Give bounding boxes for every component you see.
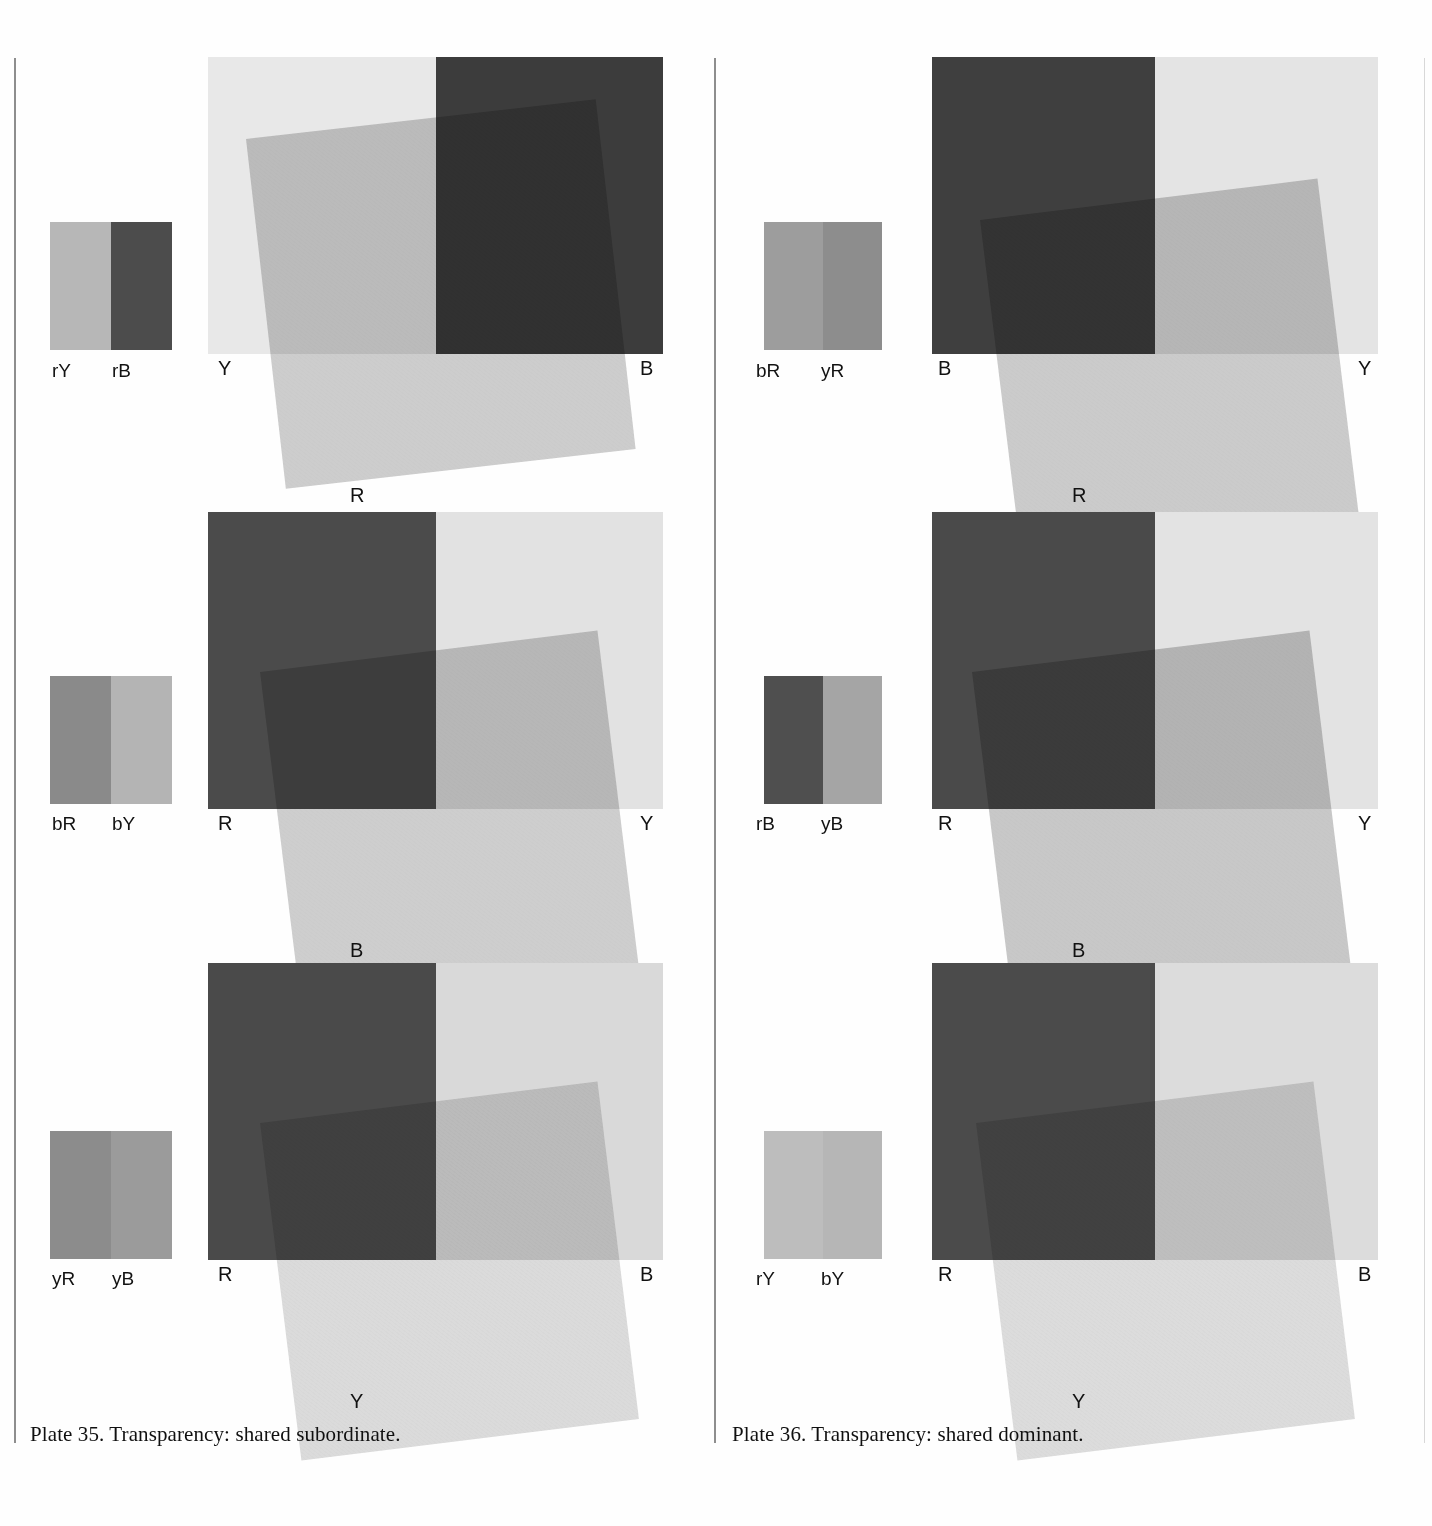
swatch-right bbox=[823, 676, 882, 804]
swatch-labels: bR bY bbox=[52, 813, 212, 835]
swatch-left bbox=[50, 1131, 111, 1259]
swatch-label-right: yB bbox=[112, 1268, 172, 1290]
overlay-square bbox=[972, 631, 1351, 1010]
swatch-label-left: rY bbox=[756, 1268, 821, 1290]
corner-label-top-left: R bbox=[938, 1263, 952, 1286]
plate-35: rY rB Y B R bR bY bbox=[0, 0, 716, 1526]
corner-label-top-right: Y bbox=[1358, 812, 1371, 835]
corner-label-top-left: Y bbox=[218, 357, 231, 380]
swatch-right bbox=[111, 222, 172, 350]
corner-label-top-right: B bbox=[640, 357, 653, 380]
swatch-pair bbox=[50, 1131, 172, 1259]
overlay-wrap bbox=[932, 57, 1378, 354]
overlay-square bbox=[976, 1082, 1355, 1461]
swatch-label-right: yB bbox=[821, 813, 886, 835]
plate-caption: Plate 36. Transparency: shared dominant. bbox=[732, 1422, 1084, 1447]
plate-caption: Plate 35. Transparency: shared subordina… bbox=[30, 1422, 401, 1447]
swatch-left bbox=[764, 1131, 823, 1259]
corner-label-bottom: B bbox=[1072, 939, 1085, 962]
grain-texture bbox=[260, 631, 639, 1010]
composition-r3: R B Y bbox=[932, 963, 1378, 1260]
plate-page: rY rB Y B R bR bY bbox=[0, 0, 1432, 1526]
overlay-wrap bbox=[932, 512, 1378, 809]
swatch-label-right: yR bbox=[821, 360, 886, 382]
swatch-label-right: rB bbox=[112, 360, 172, 382]
overlay-square bbox=[246, 99, 636, 489]
composition-r2: R Y B bbox=[208, 512, 663, 809]
grain-texture bbox=[246, 99, 636, 489]
swatch-label-left: yR bbox=[52, 1268, 112, 1290]
composition-r1: Y B R bbox=[208, 57, 663, 354]
corner-label-top-right: B bbox=[1358, 1263, 1371, 1286]
swatch-right bbox=[823, 222, 882, 350]
grain-texture bbox=[972, 631, 1351, 1010]
corner-label-top-left: R bbox=[938, 812, 952, 835]
corner-label-top-right: B bbox=[640, 1263, 653, 1286]
swatch-label-right: bY bbox=[112, 813, 172, 835]
corner-label-bottom: Y bbox=[1072, 1390, 1085, 1413]
swatch-pair bbox=[50, 222, 172, 350]
corner-label-bottom: R bbox=[1072, 484, 1086, 507]
swatch-labels: rY rB bbox=[52, 360, 212, 382]
composition-r1: B Y R bbox=[932, 57, 1378, 354]
swatch-left bbox=[50, 222, 111, 350]
swatch-label-left: rB bbox=[756, 813, 821, 835]
swatch-pair bbox=[764, 1131, 882, 1259]
composition-r2: R Y B bbox=[932, 512, 1378, 809]
swatch-right bbox=[111, 676, 172, 804]
overlay-square bbox=[260, 631, 639, 1010]
swatch-pair bbox=[764, 222, 882, 350]
swatch-left bbox=[764, 676, 823, 804]
corner-label-top-right: Y bbox=[640, 812, 653, 835]
swatch-label-left: bR bbox=[756, 360, 821, 382]
overlay-square bbox=[980, 179, 1359, 558]
corner-label-top-left: R bbox=[218, 1263, 232, 1286]
grain-texture bbox=[976, 1082, 1355, 1461]
swatch-right bbox=[823, 1131, 882, 1259]
corner-label-bottom: B bbox=[350, 939, 363, 962]
swatch-label-left: rY bbox=[52, 360, 112, 382]
overlay-wrap bbox=[208, 963, 663, 1260]
swatch-label-left: bR bbox=[52, 813, 112, 835]
overlay-wrap bbox=[208, 57, 663, 354]
plate-36: bR yR B Y R rB yB bbox=[716, 0, 1432, 1526]
corner-label-bottom: Y bbox=[350, 1390, 363, 1413]
corner-label-top-left: R bbox=[218, 812, 232, 835]
swatch-labels: yR yB bbox=[52, 1268, 212, 1290]
swatch-pair bbox=[764, 676, 882, 804]
swatch-left bbox=[50, 676, 111, 804]
swatch-right bbox=[111, 1131, 172, 1259]
composition-r3: R B Y bbox=[208, 963, 663, 1260]
corner-label-top-right: Y bbox=[1358, 357, 1371, 380]
overlay-square bbox=[260, 1082, 639, 1461]
swatch-left bbox=[764, 222, 823, 350]
swatch-label-right: bY bbox=[821, 1268, 886, 1290]
overlay-wrap bbox=[208, 512, 663, 809]
swatch-labels: rY bY bbox=[756, 1268, 916, 1290]
corner-label-bottom: R bbox=[350, 484, 364, 507]
swatch-labels: rB yB bbox=[756, 813, 916, 835]
swatch-labels: bR yR bbox=[756, 360, 916, 382]
corner-label-top-left: B bbox=[938, 357, 951, 380]
grain-texture bbox=[260, 1082, 639, 1461]
overlay-wrap bbox=[932, 963, 1378, 1260]
grain-texture bbox=[980, 179, 1359, 558]
swatch-pair bbox=[50, 676, 172, 804]
